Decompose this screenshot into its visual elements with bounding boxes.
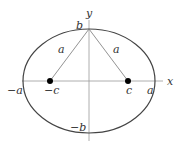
left-segment-label: a <box>58 43 65 56</box>
top-vertex-label: b <box>76 19 83 32</box>
ellipse-diagram: y x b −b −a a −c c a a <box>0 0 181 143</box>
bottom-vertex-label: −b <box>70 121 86 134</box>
right-focal-segment <box>89 29 128 81</box>
x-axis-label: x <box>167 75 174 88</box>
right-segment-label: a <box>113 43 120 56</box>
right-focus-label: c <box>126 84 132 97</box>
right-vertex-label: a <box>147 84 154 97</box>
left-focal-segment <box>50 29 89 81</box>
left-focus-label: −c <box>44 84 59 97</box>
y-axis-label: y <box>85 7 93 20</box>
left-vertex-label: −a <box>7 84 23 97</box>
